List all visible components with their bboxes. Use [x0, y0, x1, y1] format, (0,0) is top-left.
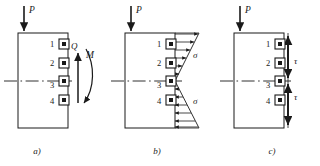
element-number-2: 2 — [50, 58, 54, 68]
stress-distribution-figure: P 1 2 3 4 — [0, 0, 320, 166]
element-number-1: 1 — [266, 39, 270, 49]
load-label-P: P — [244, 5, 251, 15]
element-number-1: 1 — [157, 39, 161, 49]
stress-element-3: 3 — [157, 76, 176, 90]
stress-element-1: 1 — [50, 39, 69, 49]
stress-element-3: 3 — [50, 76, 69, 90]
panel-caption-c: c) — [217, 146, 320, 156]
stress-element-2: 2 — [266, 58, 285, 68]
element-number-3: 3 — [266, 80, 270, 90]
panel-a-drawing: P 1 2 3 4 — [0, 0, 110, 150]
element-number-4: 4 — [157, 96, 162, 106]
shear-force-label-Q: Q — [71, 41, 78, 51]
element-number-3: 3 — [157, 80, 161, 90]
element-number-4: 4 — [50, 96, 55, 106]
stress-element-4: 4 — [157, 95, 176, 106]
stress-element-4: 4 — [266, 95, 285, 106]
panel-b-drawing: P — [110, 0, 220, 150]
panel-b: P — [110, 0, 220, 166]
normal-stress-label-bottom: σ — [193, 96, 198, 106]
stress-element-2: 2 — [157, 58, 176, 68]
normal-stress-label-top: σ — [193, 50, 198, 60]
load-label-P: P — [135, 5, 142, 15]
stress-element-4: 4 — [50, 95, 69, 106]
normal-stress-distribution — [175, 33, 199, 128]
stress-element-1: 1 — [157, 39, 176, 49]
panel-c-drawing: P τ τ 1 — [215, 0, 320, 150]
panel-c: P τ τ 1 — [215, 0, 320, 166]
stress-element-3: 3 — [266, 76, 285, 90]
stress-element-1: 1 — [266, 39, 285, 49]
panel-a: P 1 2 3 4 — [0, 0, 110, 166]
panel-caption-b: b) — [102, 146, 212, 156]
element-number-3: 3 — [50, 80, 54, 90]
bending-moment-label-M: M — [85, 50, 95, 60]
element-number-4: 4 — [266, 96, 271, 106]
shear-stress-label-upper: τ — [294, 56, 298, 66]
load-label-P: P — [28, 5, 35, 15]
panel-caption-a: a) — [0, 146, 92, 156]
element-number-2: 2 — [266, 58, 270, 68]
element-number-2: 2 — [157, 58, 161, 68]
shear-stress-label-lower: τ — [294, 92, 298, 102]
element-number-1: 1 — [50, 39, 54, 49]
stress-element-2: 2 — [50, 58, 69, 68]
